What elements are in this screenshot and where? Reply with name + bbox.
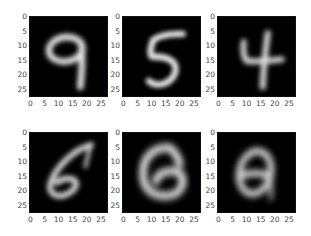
- x-tick-label: 20: [80, 100, 94, 108]
- y-tick-label: 0: [201, 129, 215, 137]
- y-tick-label: 25: [201, 86, 215, 94]
- y-tick-label: 15: [13, 57, 27, 65]
- y-tick-label: 5: [13, 144, 27, 152]
- x-tick-label: 25: [187, 100, 201, 108]
- x-tick-label: 15: [66, 216, 80, 224]
- x-tick-label: 0: [116, 216, 130, 224]
- x-tick-label: 20: [268, 100, 282, 108]
- y-tick-label: 15: [106, 57, 120, 65]
- y-tick-label: 10: [13, 158, 27, 166]
- y-tick-label: 20: [13, 71, 27, 79]
- x-tick-label: 0: [116, 100, 130, 108]
- x-tick-label: 10: [145, 100, 159, 108]
- x-tick-label: 25: [94, 100, 108, 108]
- y-tick-label: 25: [106, 86, 120, 94]
- y-tick-label: 15: [201, 173, 215, 181]
- x-tick-label: 5: [226, 100, 240, 108]
- x-tick-label: 10: [240, 216, 254, 224]
- x-tick-label: 25: [282, 100, 296, 108]
- x-tick-label: 10: [52, 100, 66, 108]
- y-tick-label: 15: [106, 173, 120, 181]
- digit-image-6-blurry: [122, 132, 201, 213]
- digit-image-8: [217, 132, 296, 213]
- y-tick-label: 20: [106, 187, 120, 195]
- x-tick-label: 15: [66, 100, 80, 108]
- x-tick-label: 25: [187, 216, 201, 224]
- y-tick-label: 15: [13, 173, 27, 181]
- y-tick-label: 20: [13, 187, 27, 195]
- y-tick-label: 20: [201, 71, 215, 79]
- x-tick-label: 15: [159, 216, 173, 224]
- y-tick-label: 0: [201, 13, 215, 21]
- subplot-digit-4: [217, 16, 296, 97]
- x-tick-label: 25: [282, 216, 296, 224]
- x-tick-label: 20: [173, 100, 187, 108]
- subplot-digit-5: [122, 16, 201, 97]
- y-tick-label: 20: [201, 187, 215, 195]
- subplot-digit-9: [29, 16, 108, 97]
- subplot-digit-8: [217, 132, 296, 213]
- x-tick-label: 5: [226, 216, 240, 224]
- y-tick-label: 0: [13, 129, 27, 137]
- y-tick-label: 10: [106, 158, 120, 166]
- y-tick-label: 10: [201, 158, 215, 166]
- x-tick-label: 5: [38, 100, 52, 108]
- y-tick-label: 15: [201, 57, 215, 65]
- y-tick-label: 25: [106, 202, 120, 210]
- x-tick-label: 20: [173, 216, 187, 224]
- x-tick-label: 10: [240, 100, 254, 108]
- y-tick-label: 10: [13, 42, 27, 50]
- digit-image-4: [217, 16, 296, 97]
- y-tick-label: 5: [106, 28, 120, 36]
- y-tick-label: 5: [106, 144, 120, 152]
- y-tick-label: 5: [201, 144, 215, 152]
- x-tick-label: 0: [211, 216, 225, 224]
- x-tick-label: 25: [94, 216, 108, 224]
- y-tick-label: 0: [13, 13, 27, 21]
- subplot-digit-6-blurry: [122, 132, 201, 213]
- digit-image-5: [122, 16, 201, 97]
- y-tick-label: 0: [106, 129, 120, 137]
- x-tick-label: 0: [23, 100, 37, 108]
- x-tick-label: 15: [254, 100, 268, 108]
- subplot-digit-6: [29, 132, 108, 213]
- y-tick-label: 10: [201, 42, 215, 50]
- digit-image-9: [29, 16, 108, 97]
- y-tick-label: 20: [106, 71, 120, 79]
- digit-image-6: [29, 132, 108, 213]
- x-tick-label: 5: [131, 216, 145, 224]
- x-tick-label: 20: [268, 216, 282, 224]
- y-tick-label: 25: [13, 86, 27, 94]
- x-tick-label: 0: [23, 216, 37, 224]
- x-tick-label: 15: [254, 216, 268, 224]
- x-tick-label: 0: [211, 100, 225, 108]
- x-tick-label: 5: [38, 216, 52, 224]
- x-tick-label: 10: [52, 216, 66, 224]
- x-tick-label: 20: [80, 216, 94, 224]
- x-tick-label: 15: [159, 100, 173, 108]
- y-tick-label: 25: [13, 202, 27, 210]
- y-tick-label: 25: [201, 202, 215, 210]
- x-tick-label: 5: [131, 100, 145, 108]
- y-tick-label: 0: [106, 13, 120, 21]
- y-tick-label: 5: [201, 28, 215, 36]
- x-tick-label: 10: [145, 216, 159, 224]
- y-tick-label: 10: [106, 42, 120, 50]
- y-tick-label: 5: [13, 28, 27, 36]
